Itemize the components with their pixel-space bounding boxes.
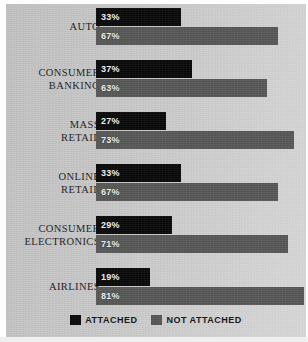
- bar-attached-airlines[interactable]: 19%: [96, 268, 150, 286]
- bar-group-mass-retail: 27% 73%: [96, 112, 306, 151]
- legend-item-not-attached[interactable]: NOT ATTACHED: [151, 315, 241, 325]
- bar-attached-auto[interactable]: 33%: [96, 8, 181, 26]
- chart-legend: ATTACHED NOT ATTACHED: [6, 315, 306, 325]
- category-label-consumer-electronics: CONSUMER ELECTRONICS: [12, 216, 100, 255]
- category-label-mass-retail: MASS RETAIL: [12, 112, 100, 151]
- category-label-line: ELECTRONICS: [24, 236, 100, 249]
- plot-area: AUTO 33% 67% CONSUMER BANKING: [6, 4, 306, 304]
- legend-swatch-icon: [70, 315, 81, 325]
- bar-attached-consumer-banking[interactable]: 37%: [96, 60, 192, 78]
- category-label-line: ONLINE: [59, 171, 100, 184]
- bar-value-label: 67%: [101, 31, 120, 41]
- bar-value-label: 73%: [101, 135, 120, 145]
- category-label-line: AIRLINES: [49, 281, 100, 294]
- category-label-consumer-banking: CONSUMER BANKING: [12, 60, 100, 99]
- bar-value-label: 37%: [101, 64, 120, 74]
- bar-value-label: 19%: [101, 272, 120, 282]
- legend-label: NOT ATTACHED: [166, 315, 241, 325]
- category-label-line: BANKING: [49, 80, 100, 93]
- chart-row-mass-retail: MASS RETAIL 27% 73%: [6, 112, 306, 151]
- legend-item-attached[interactable]: ATTACHED: [70, 315, 137, 325]
- bar-not-attached-consumer-banking[interactable]: 63%: [96, 79, 267, 97]
- bar-value-label: 27%: [101, 116, 120, 126]
- category-label-line: CONSUMER: [38, 223, 100, 236]
- bar-group-auto: 33% 67%: [96, 8, 306, 47]
- category-label-line: RETAIL: [61, 132, 100, 145]
- bar-not-attached-mass-retail[interactable]: 73%: [96, 131, 294, 149]
- page-bottom-edge: [0, 337, 308, 342]
- bar-not-attached-online-retail[interactable]: 67%: [96, 183, 278, 201]
- chart-row-consumer-electronics: CONSUMER ELECTRONICS 29% 71%: [6, 216, 306, 255]
- chart-row-airlines: AIRLINES 19% 81%: [6, 268, 306, 307]
- bar-value-label: 33%: [101, 168, 120, 178]
- bar-group-consumer-banking: 37% 63%: [96, 60, 306, 99]
- legend-swatch-icon: [151, 315, 162, 325]
- bar-value-label: 67%: [101, 187, 120, 197]
- bar-not-attached-auto[interactable]: 67%: [96, 27, 278, 45]
- category-label-line: CONSUMER: [38, 67, 100, 80]
- category-label-line: RETAIL: [61, 184, 100, 197]
- legend-label: ATTACHED: [85, 315, 137, 325]
- chart-row-consumer-banking: CONSUMER BANKING 37% 63%: [6, 60, 306, 99]
- bar-chart-panel: AUTO 33% 67% CONSUMER BANKING: [6, 4, 306, 337]
- bar-value-label: 29%: [101, 220, 120, 230]
- bar-group-airlines: 19% 81%: [96, 268, 306, 307]
- bar-group-consumer-electronics: 29% 71%: [96, 216, 306, 255]
- chart-row-auto: AUTO 33% 67%: [6, 8, 306, 47]
- category-label-auto: AUTO: [12, 8, 100, 47]
- bar-attached-mass-retail[interactable]: 27%: [96, 112, 166, 130]
- bar-group-online-retail: 33% 67%: [96, 164, 306, 203]
- bar-attached-consumer-electronics[interactable]: 29%: [96, 216, 172, 234]
- bar-attached-online-retail[interactable]: 33%: [96, 164, 181, 182]
- bar-value-label: 81%: [101, 291, 120, 301]
- category-label-airlines: AIRLINES: [12, 268, 100, 307]
- category-label-online-retail: ONLINE RETAIL: [12, 164, 100, 203]
- bar-not-attached-airlines[interactable]: 81%: [96, 287, 304, 305]
- bar-not-attached-consumer-electronics[interactable]: 71%: [96, 235, 288, 253]
- bar-value-label: 33%: [101, 12, 120, 22]
- chart-page: AUTO 33% 67% CONSUMER BANKING: [0, 0, 308, 342]
- bar-value-label: 71%: [101, 239, 120, 249]
- chart-row-online-retail: ONLINE RETAIL 33% 67%: [6, 164, 306, 203]
- bar-value-label: 63%: [101, 83, 120, 93]
